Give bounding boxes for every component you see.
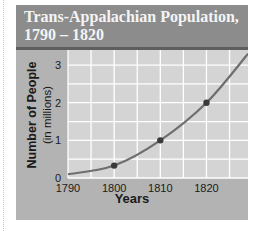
- y-axis-label-sub: (in millions): [40, 50, 54, 180]
- x-axis-label: Years: [16, 191, 248, 206]
- y-axis-label: Number of People (in millions): [25, 50, 59, 180]
- data-point-marker: [203, 100, 209, 106]
- page-edge-divider: [3, 0, 4, 231]
- data-point-marker: [111, 162, 117, 168]
- y-axis-label-main: Number of People: [25, 50, 40, 180]
- chart-panel: Trans-Appalachian Population, 1790 – 182…: [16, 5, 248, 220]
- data-point-marker: [157, 137, 163, 143]
